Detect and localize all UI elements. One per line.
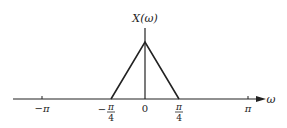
spectrum-diagram: X(ω) ω −π − π 4 0 π 4 π: [0, 0, 287, 128]
tick-label-neg-pi: −π: [35, 103, 50, 114]
tick-label-neg-pi4-num: π: [107, 102, 115, 112]
y-axis-label: X(ω): [131, 12, 157, 25]
tick-label-pi4-den: 4: [176, 113, 182, 123]
axis-arrow-icon: [256, 96, 266, 102]
x-axis-label: ω: [267, 93, 276, 106]
tick-label-pi4-num: π: [175, 102, 183, 112]
tick-label-pi: π: [244, 103, 252, 114]
tick-label-neg-pi4-den: 4: [108, 113, 114, 123]
tick-label-neg-pi4-sign: −: [98, 104, 106, 115]
tick-label-zero: 0: [142, 103, 148, 114]
